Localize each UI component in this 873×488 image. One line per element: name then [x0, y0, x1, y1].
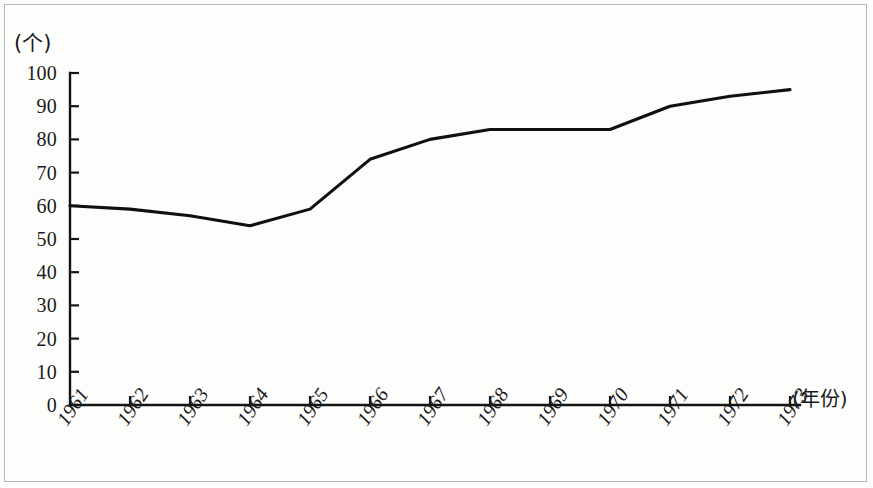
y-tick-label: 20 [37, 328, 57, 350]
y-tick-label: 60 [37, 195, 57, 217]
y-tick-label: 100 [26, 62, 57, 84]
y-tick-mark-group [70, 73, 79, 405]
y-tick-label: 50 [37, 228, 57, 250]
y-tick-label: 10 [37, 361, 57, 383]
y-tick-label: 30 [37, 294, 57, 316]
y-tick-label: 70 [37, 162, 57, 184]
y-tick-label: 40 [37, 261, 57, 283]
y-tick-label: 80 [37, 128, 57, 150]
chart-figure: (个) (年份) 0102030405060708090100 19611962… [0, 0, 873, 488]
y-tick-label: 90 [37, 95, 57, 117]
y-tick-label-group: 0102030405060708090100 [26, 62, 57, 416]
data-series-line [70, 90, 790, 226]
